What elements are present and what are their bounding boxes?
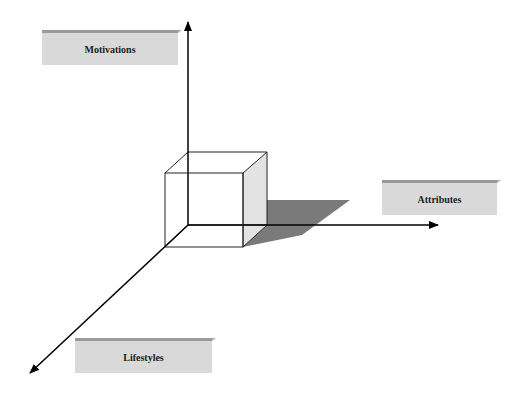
cube-top-left-edge xyxy=(165,152,188,173)
label-lifestyles: Lifestyles xyxy=(75,338,212,373)
label-attributes-text: Attributes xyxy=(418,194,462,205)
label-attributes: Attributes xyxy=(382,180,497,215)
label-lifestyles-text: Lifestyles xyxy=(123,352,164,363)
label-motivations: Motivations xyxy=(42,30,178,65)
label-motivations-text: Motivations xyxy=(84,44,135,55)
